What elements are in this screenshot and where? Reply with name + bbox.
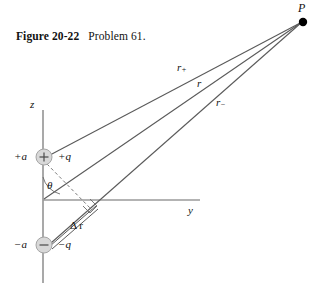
figure-20-22: Figure 20-22Problem 61. [0,0,329,291]
r-line [44,22,302,199]
y-axis-label: y [188,205,193,216]
delta-r-label: Δ r [70,220,83,231]
r-plus-line [50,22,302,155]
theta-label: θ [47,180,52,191]
charge-negative-offset-label: −a [14,239,27,250]
r-minus-subscript: − [220,100,225,109]
charge-negative-label: −q [58,239,71,250]
r-plus-subscript: + [181,65,186,74]
r-plus-label: r+ [177,62,186,74]
field-point-label: P [298,2,305,14]
figure-drawing [0,0,329,291]
z-axis-label: z [30,99,34,110]
charge-positive-label: +q [58,151,71,162]
r-label: r [197,78,201,89]
charge-positive-offset-label: +a [14,151,27,162]
r-minus-line [51,22,302,243]
r-minus-label: r− [216,97,225,109]
delta-r-text: Δ r [70,219,83,231]
field-point-dot [299,18,307,26]
